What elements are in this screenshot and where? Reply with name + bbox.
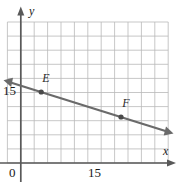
coordinate-plane-figure: E F y x 15 0 15 xyxy=(0,0,179,190)
y-axis xyxy=(17,7,24,183)
y-axis-label: y xyxy=(28,4,35,18)
data-point-f xyxy=(118,114,123,119)
origin-label-0: 0 xyxy=(9,165,16,180)
point-label-e: E xyxy=(41,71,50,85)
graph-canvas: E F y x 15 0 15 xyxy=(0,0,179,190)
data-point-e xyxy=(39,89,44,94)
point-label-f: F xyxy=(121,96,130,110)
y-axis-tick-15: 15 xyxy=(3,83,16,98)
x-axis-tick-15: 15 xyxy=(88,165,101,180)
x-axis-label: x xyxy=(162,144,169,158)
grid-lines xyxy=(7,22,168,163)
